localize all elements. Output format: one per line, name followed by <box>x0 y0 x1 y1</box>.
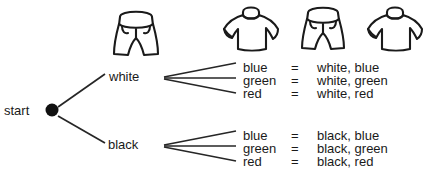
outcome-result-white-red: white, red <box>317 87 373 100</box>
outcome-color-white-red: red <box>243 87 262 100</box>
start-label: start <box>4 104 29 117</box>
branch-line-white-to-blue <box>164 63 236 77</box>
tshirt-icon <box>362 2 426 56</box>
shorts-icon <box>104 4 168 62</box>
branch-line-black-to-red <box>164 147 236 161</box>
shorts-icon <box>295 2 351 56</box>
equals-sign: = <box>291 155 299 168</box>
start-node-dot <box>46 104 59 117</box>
probability-tree-diagram: start white black blue = white, blue gre… <box>0 0 427 177</box>
branch-line-start-to-white <box>58 74 105 107</box>
branch-label-black: black <box>108 138 138 151</box>
outcome-result-black-red: black, red <box>317 155 373 168</box>
branch-line-black-to-blue <box>164 131 236 145</box>
branch-line-start-to-black <box>58 116 105 143</box>
branch-line-white-to-red <box>164 79 236 93</box>
outcome-color-black-red: red <box>243 155 262 168</box>
branch-label-white: white <box>109 70 139 83</box>
tshirt-icon <box>218 2 282 56</box>
equals-sign: = <box>291 87 299 100</box>
